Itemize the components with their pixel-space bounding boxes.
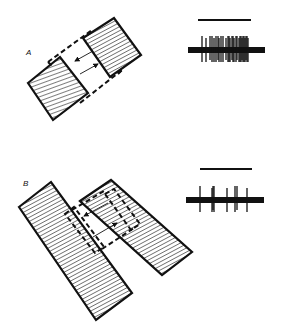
panel-b-spike-train xyxy=(186,169,264,212)
lower-left-bar xyxy=(28,57,88,120)
panel-a: A xyxy=(25,18,265,120)
panel-b-label: B xyxy=(23,179,29,188)
panel-a-label: A xyxy=(25,48,31,57)
arrow-left xyxy=(75,51,93,61)
arrow-right xyxy=(80,64,98,74)
top-dash xyxy=(48,30,92,62)
panel-a-bars xyxy=(28,18,141,120)
panel-b-bars xyxy=(19,180,192,320)
panel-a-spike-train xyxy=(188,20,265,62)
upper-right-bar xyxy=(83,18,141,77)
bottom-dash xyxy=(80,70,122,103)
panel-b: B xyxy=(19,169,264,320)
receptive-field-diagram: A B xyxy=(0,0,283,332)
